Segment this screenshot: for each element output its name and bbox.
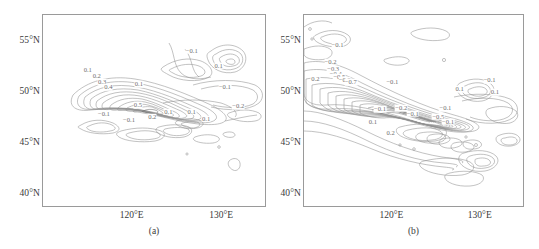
contour-label: 0.5: [133, 102, 142, 109]
xtick-label-120e: 120°E: [120, 210, 144, 220]
contour-label: 0.4: [104, 84, 113, 91]
ytick-label-55n: 55°N: [19, 35, 40, 45]
panel-a-y-axis: 55°N 50°N 45°N 40°N: [0, 0, 40, 249]
contour-label: −0.7: [344, 79, 357, 86]
contour-label: −0.1: [406, 110, 419, 117]
figure-contour-pair: 55°N 50°N 45°N 40°N: [0, 0, 539, 249]
contour-label: 0.1: [202, 115, 211, 122]
ytick-label-45n: 45°N: [280, 137, 301, 147]
contour-label: −0.1: [439, 105, 452, 112]
ytick-label-45n: 45°N: [19, 137, 40, 147]
panel-b: 55°N 50°N 45°N 40°N: [269, 0, 539, 249]
contour-label: 0.2: [148, 113, 157, 120]
panel-a-contour-layer: [43, 15, 265, 206]
contour-label: 0.2: [386, 130, 395, 137]
contour-label: −0.2: [232, 103, 245, 110]
panel-a-caption: (a): [42, 226, 266, 236]
ytick-label-50n: 50°N: [19, 86, 40, 96]
contour-label: 0.1: [187, 108, 196, 115]
xtick-label-120e: 120°E: [379, 210, 403, 220]
contour-label: −0.1: [123, 116, 136, 123]
contour-label: 0.1: [214, 62, 223, 69]
ytick-label-55n: 55°N: [280, 35, 301, 45]
contour-label: −0.1: [483, 77, 496, 84]
panel-a: 55°N 50°N 45°N 40°N: [0, 0, 270, 249]
contour-label: −0.1: [331, 42, 344, 49]
ytick-label-40n: 40°N: [19, 188, 40, 198]
contour-label: −0.1: [185, 47, 198, 54]
contour-label: 0.1: [164, 108, 173, 115]
ytick-label-40n: 40°N: [280, 188, 301, 198]
panel-b-caption: (b): [303, 226, 524, 236]
xtick-label-130e: 130°E: [468, 210, 492, 220]
contour-label: −0.1: [98, 110, 111, 117]
xtick-label-130e: 130°E: [209, 210, 233, 220]
panel-b-plot-frame: −0.1−0.2−0.3−0.4−0.5−0.6−0.70.2−0.1−0.10…: [303, 14, 524, 207]
ytick-label-50n: 50°N: [280, 86, 301, 96]
panel-b-y-axis: 55°N 50°N 45°N 40°N: [269, 0, 301, 249]
contour-label: 0.1: [368, 118, 377, 125]
panel-a-plot-frame: 0.10.20.30.40.50.1−0.1−0.1−0.10.1−0.1−0.…: [42, 14, 266, 207]
contour-label: −0.1: [219, 84, 232, 91]
contour-label: 0.1: [134, 81, 143, 88]
contour-label: −0.1: [374, 106, 387, 113]
contour-label: −0.1: [442, 118, 455, 125]
contour-label: 0.1: [455, 86, 464, 93]
contour-label: 0.1: [490, 89, 499, 96]
contour-label: 0.2: [311, 76, 320, 83]
contour-label: 0.1: [83, 67, 92, 74]
contour-label: −0.1: [386, 79, 399, 86]
